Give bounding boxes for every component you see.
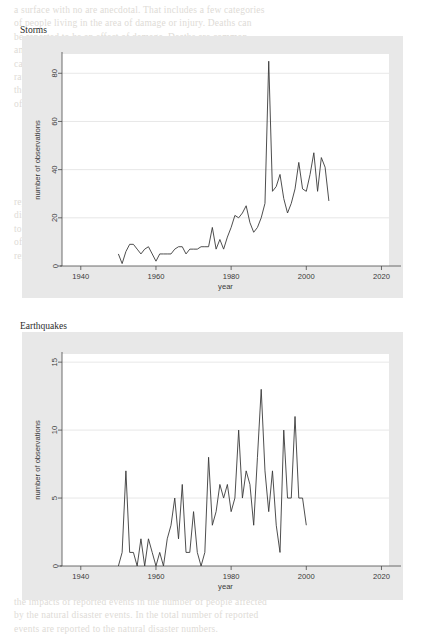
y-tick-label: 80: [51, 69, 60, 77]
y-axis-title: number of observations: [33, 120, 42, 200]
y-tick-label: 40: [51, 165, 60, 173]
figure-earthquakes: Earthquakes 05101519401960198020002020ye…: [0, 320, 425, 600]
x-axis-title: year: [218, 282, 233, 291]
chart-storms: 02040608019401960198020002020yearnumber …: [22, 36, 403, 298]
x-tick-label: 2020: [373, 272, 390, 281]
graph-region-earthquakes: 05101519401960198020002020yearnumber of …: [22, 332, 403, 600]
graph-region-storms: 02040608019401960198020002020yearnumber …: [22, 36, 403, 298]
y-tick-label: 0: [51, 264, 60, 268]
y-tick-label: 15: [51, 358, 60, 366]
y-tick-label: 20: [51, 214, 60, 222]
y-tick-label: 5: [51, 496, 60, 500]
x-axis-title: year: [218, 582, 233, 591]
figure-title-earthquakes: Earthquakes: [20, 320, 425, 332]
x-tick-label: 1980: [223, 272, 240, 281]
x-tick-label: 1980: [223, 572, 240, 581]
plot-panel: [62, 354, 389, 566]
x-tick-label: 2020: [373, 572, 390, 581]
x-tick-label: 2000: [298, 572, 315, 581]
x-tick-label: 1940: [72, 272, 89, 281]
x-tick-label: 2000: [298, 272, 315, 281]
figure-title-storms: Storms: [20, 24, 425, 36]
page-bleed-text-bottom: the impacts of reported events in the nu…: [0, 596, 425, 634]
x-tick-label: 1960: [148, 272, 165, 281]
y-tick-label: 0: [51, 564, 60, 568]
figure-storms: Storms 02040608019401960198020002020year…: [0, 24, 425, 298]
chart-earthquakes: 05101519401960198020002020yearnumber of …: [22, 332, 403, 600]
y-tick-label: 10: [51, 426, 60, 434]
y-tick-label: 60: [51, 117, 60, 125]
y-axis-title: number of observations: [33, 420, 42, 500]
x-tick-label: 1960: [148, 572, 165, 581]
plot-panel: [62, 54, 389, 266]
x-tick-label: 1940: [72, 572, 89, 581]
